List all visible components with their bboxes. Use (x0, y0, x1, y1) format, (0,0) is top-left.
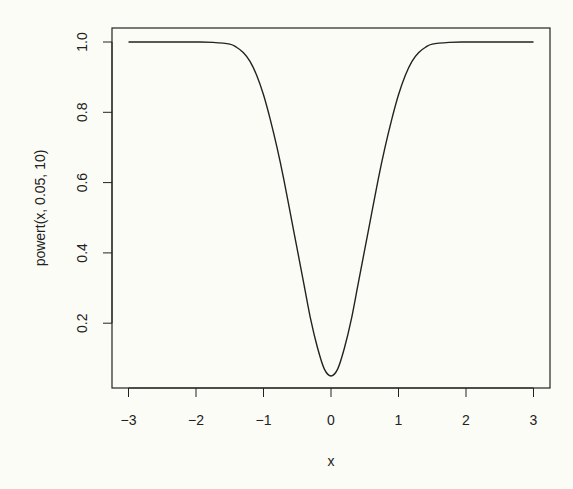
plot-box (112, 28, 550, 388)
x-tick-label: −1 (256, 412, 272, 428)
y-tick-label: 1.0 (74, 32, 90, 52)
x-tick-label: 0 (327, 412, 335, 428)
y-tick-label: 0.2 (74, 313, 90, 333)
y-axis-label: powert(x, 0.05, 10) (32, 150, 48, 267)
y-axis: 0.20.40.60.81.0 (74, 32, 112, 333)
x-tick-label: −2 (188, 412, 204, 428)
power-curve-line (129, 42, 534, 376)
x-axis-label: x (328, 453, 335, 469)
y-tick-label: 0.4 (74, 243, 90, 263)
x-tick-label: 3 (530, 412, 538, 428)
x-axis: −3−2−10123 (121, 388, 538, 428)
y-tick-label: 0.6 (74, 173, 90, 193)
x-tick-label: 1 (395, 412, 403, 428)
x-tick-label: 2 (462, 412, 470, 428)
x-tick-label: −3 (121, 412, 137, 428)
y-tick-label: 0.8 (74, 102, 90, 122)
power-curve-chart: −3−2−10123 0.20.40.60.81.0 x powert(x, 0… (0, 0, 573, 489)
